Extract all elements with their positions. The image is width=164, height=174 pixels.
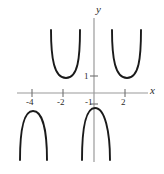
y-tick-label-minus-1: -1 — [85, 98, 93, 107]
curve-branch-upper-right — [112, 30, 141, 78]
x-tick-label-minus-4: -4 — [26, 98, 34, 107]
y-axis-label: y — [96, 4, 101, 15]
x-tick-label-minus-2: -2 — [57, 98, 65, 107]
x-tick-label-plus-2: 2 — [121, 98, 126, 107]
function-graph-figure: y x -4 -2 2 1 -1 — [0, 0, 164, 174]
y-tick-label-plus-1: 1 — [84, 72, 89, 81]
plot-canvas — [0, 0, 164, 174]
x-axis-label: x — [150, 85, 155, 96]
curve-branch-lower-left — [20, 111, 47, 160]
curve-branch-upper-left — [51, 30, 80, 78]
curve-branch-lower-right — [82, 108, 110, 160]
